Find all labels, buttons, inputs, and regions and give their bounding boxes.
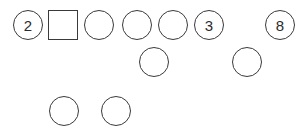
shape-row (0, 0, 303, 137)
circle-shape (101, 96, 131, 126)
circle-shape (49, 96, 79, 126)
diagram-canvas: 238 (0, 0, 303, 137)
